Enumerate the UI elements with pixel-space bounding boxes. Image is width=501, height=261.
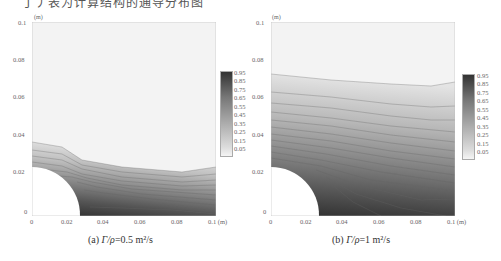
y-tick-label: 0.06 — [252, 93, 263, 100]
figure-panel-a: (m) 0.1 0.08 0.06 0.04 0.02 0 — [0, 0, 250, 261]
y-tick-label: 0.02 — [252, 168, 263, 175]
y-tick-label: 0 — [24, 208, 27, 215]
y-tick-label: 0.04 — [252, 131, 263, 138]
y-tick-label: 0.06 — [13, 93, 24, 100]
x-tick-label: 0 — [30, 218, 33, 225]
colorbar-label: 0.25 — [477, 131, 488, 138]
caption-symbol: Γ/ρ — [102, 234, 115, 245]
figure-caption-b: (b) Γ/ρ=1 m²/s — [332, 234, 390, 245]
colorbar-label: 0.65 — [477, 97, 488, 104]
colorbar-b — [462, 74, 475, 160]
x-tick-label: 0.08 — [410, 218, 421, 225]
colorbar-label: 0.55 — [234, 103, 245, 110]
x-unit-label: 0.1 (m) — [447, 218, 466, 225]
colorbar-label: 0.35 — [477, 123, 488, 130]
y-tick-label: 0.04 — [13, 131, 24, 138]
x-tick-label: 0.08 — [171, 218, 182, 225]
colorbar-label: 0.85 — [477, 80, 488, 87]
contour-plot-b — [271, 22, 455, 216]
y-tick-label: 0 — [263, 208, 266, 215]
colorbar-label: 0.05 — [477, 148, 488, 155]
caption-value: =0.5 m²/s — [115, 234, 153, 245]
colorbar-label: 0.55 — [477, 106, 488, 113]
colorbar-label: 0.05 — [234, 145, 245, 152]
y-unit-label: (m) — [34, 14, 43, 20]
colorbar-label: 0.65 — [234, 94, 245, 101]
y-tick-label: 0.08 — [252, 56, 263, 63]
y-tick-label: 0.02 — [13, 168, 24, 175]
x-unit-label: 0.1 (m) — [208, 218, 227, 225]
caption-symbol: Γ/ρ — [346, 234, 359, 245]
x-tick-label: 0.06 — [134, 218, 145, 225]
x-tick-label: 0 — [269, 218, 272, 225]
y-tick-label: 0.08 — [13, 56, 24, 63]
colorbar-label: 0.85 — [234, 77, 245, 84]
colorbar-label: 0.45 — [234, 111, 245, 118]
y-tick-label: 0.1 — [256, 19, 264, 26]
caption-label: (b) — [332, 234, 344, 245]
caption-label: (a) — [88, 234, 99, 245]
colorbar-label: 0.15 — [234, 137, 245, 144]
x-tick-label: 0.04 — [97, 218, 108, 225]
colorbar-a — [220, 71, 233, 157]
colorbar-label: 0.75 — [477, 89, 488, 96]
y-tick-label: 0.1 — [18, 19, 26, 26]
colorbar-label: 0.35 — [234, 120, 245, 127]
x-tick-label: 0.06 — [373, 218, 384, 225]
figure-caption-a: (a) Γ/ρ=0.5 m²/s — [88, 234, 153, 245]
colorbar-label: 0.75 — [234, 86, 245, 93]
x-tick-label: 0.04 — [336, 218, 347, 225]
caption-value: =1 m²/s — [359, 234, 390, 245]
y-unit-label: (m) — [272, 14, 281, 20]
colorbar-label: 0.25 — [234, 128, 245, 135]
figure-panel-b: (m) 0.1 0.08 0.06 0.04 0.02 0 — [250, 0, 500, 261]
contour-plot-a — [32, 22, 216, 216]
x-tick-label: 0.02 — [300, 218, 311, 225]
colorbar-label: 0.95 — [234, 69, 245, 76]
colorbar-label: 0.45 — [477, 114, 488, 121]
x-tick-label: 0.02 — [61, 218, 72, 225]
colorbar-label: 0.95 — [477, 72, 488, 79]
colorbar-label: 0.15 — [477, 140, 488, 147]
